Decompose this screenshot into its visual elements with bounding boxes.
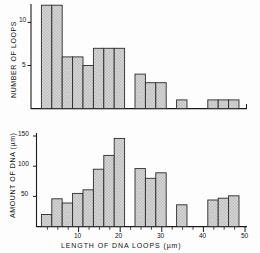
bottom-chart-ytick-150: 150	[18, 130, 29, 137]
top-chart-bars	[41, 5, 239, 108]
bottom-chart-ytick-100: 100	[18, 160, 29, 167]
bottom-chart-x-axis-label-main: LENGTH OF DNA LOOPS	[61, 242, 161, 249]
figure-svg	[0, 0, 260, 253]
bottom-chart-y-axis-label-unit: (µm)	[9, 133, 16, 150]
bottom-chart-xtick-50: 50	[241, 232, 248, 239]
figure-container: NUMBER OF LOOPS 10 5	[0, 0, 260, 253]
bottom-chart-ytick-50: 50	[21, 190, 28, 197]
bottom-chart-bars	[41, 138, 239, 226]
bottom-chart-xtick-30: 30	[157, 232, 164, 239]
bottom-chart-y-axis-label: AMOUNT OF DNA (µm)	[9, 133, 16, 219]
bottom-chart-xtick-40: 40	[199, 232, 206, 239]
bottom-chart-y-axis-label-main: AMOUNT OF DNA	[9, 152, 16, 218]
bottom-chart-xtick-20: 20	[115, 232, 122, 239]
bottom-chart-x-axis-label: LENGTH OF DNA LOOPS (µm)	[61, 242, 182, 249]
bottom-chart-xtick-10: 10	[74, 232, 81, 239]
bottom-chart-x-axis-label-unit: (µm)	[163, 242, 181, 249]
